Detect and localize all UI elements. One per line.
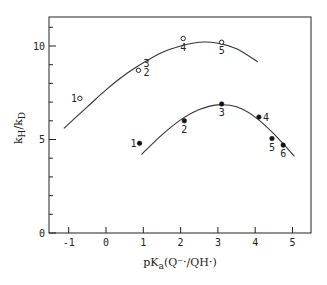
x-tick-label: 5 [289,237,295,248]
x-tick-label: 4 [252,237,258,248]
filled-data-point [270,136,275,141]
filled-data-point [257,115,262,120]
point-label: 4 [263,112,269,123]
point-label: 5 [269,142,275,153]
filled-data-point [281,143,286,148]
x-axis-title: pKa(Q⁻·/QH·) [143,256,216,271]
point-label: 3 [219,107,225,118]
y-tick-label: 10 [33,41,45,52]
x-axis: -1012345 [63,227,296,248]
open-data-point [136,68,140,72]
open-data-point [78,96,82,100]
x-tick-label: 0 [103,237,109,248]
open-data-point [181,36,185,40]
point-label: 3 [143,58,149,69]
y-axis: 0510 [33,27,56,238]
point-label: 1 [131,138,137,149]
x-tick-label: 2 [178,237,184,248]
y-tick-label: 0 [39,228,45,239]
y-tick-label: 5 [39,134,45,145]
point-label: 6 [280,148,286,159]
point-label: 1 [71,93,77,104]
filled-data-point [219,102,224,107]
y-axis-title: kH/kD [12,112,27,144]
point-label: 5 [219,45,225,56]
data-points: 12345123456 [71,36,286,159]
chart: -1012345 0510 12345123456 pKa(Q⁻·/QH·) k… [0,0,327,285]
x-tick-label: 1 [140,237,146,248]
point-label: 2 [181,124,187,135]
fit-curves [64,42,295,156]
open-data-point [219,40,223,44]
upper-fit-curve [64,42,258,128]
x-tick-label: -1 [63,237,75,248]
filled-data-point [182,119,187,124]
filled-data-point [137,141,142,146]
point-label: 4 [180,42,186,53]
x-tick-label: 3 [215,237,221,248]
